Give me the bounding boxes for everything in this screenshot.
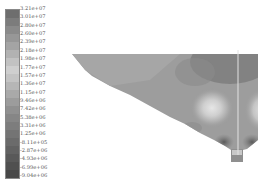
section-body [60,40,273,160]
contour-plot [0,0,273,188]
